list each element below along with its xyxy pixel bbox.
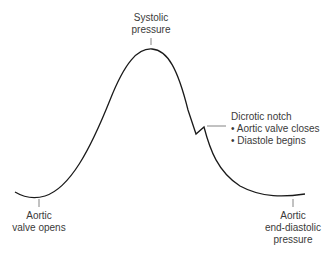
end-diastolic-label: Aortic end-diastolic pressure (260, 210, 326, 246)
systolic-label: Systolic pressure (128, 12, 174, 36)
valve-opens-label: Aortic valve opens (8, 210, 70, 234)
dicrotic-notch-label: Dicrotic notch • Aortic valve closes • D… (231, 111, 320, 147)
